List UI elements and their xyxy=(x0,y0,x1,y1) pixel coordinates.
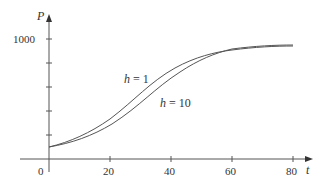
x-tick-label-20: 20 xyxy=(103,165,115,177)
y-tick-label-1000: 1000 xyxy=(13,33,36,45)
chart: P 1000 0 20 40 60 80 t h = 1 h = 10 xyxy=(0,0,324,187)
y-axis-label: P xyxy=(36,9,45,23)
x-axis-label: t xyxy=(306,163,310,177)
origin-label: 0 xyxy=(38,165,44,177)
label-h10: h = 10 xyxy=(160,96,191,110)
label-h1: h = 1 xyxy=(124,72,149,86)
y-axis-arrow-icon xyxy=(46,14,52,22)
x-tick-label-60: 60 xyxy=(225,165,237,177)
x-tick-label-80: 80 xyxy=(286,165,298,177)
x-tick-label-40: 40 xyxy=(164,165,176,177)
x-axis-arrow-icon xyxy=(305,156,313,162)
